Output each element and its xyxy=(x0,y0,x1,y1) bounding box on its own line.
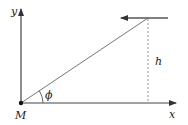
x-axis-label: x xyxy=(169,108,176,121)
height-label: h xyxy=(155,55,162,68)
sight-line xyxy=(21,18,148,103)
angle-arc xyxy=(39,91,43,103)
y-axis-label: y xyxy=(10,5,18,18)
origin-label: M xyxy=(14,109,27,122)
diagram-canvas: y x M ϕ h xyxy=(0,0,188,125)
angle-label: ϕ xyxy=(45,89,53,102)
origin-point xyxy=(19,101,23,105)
